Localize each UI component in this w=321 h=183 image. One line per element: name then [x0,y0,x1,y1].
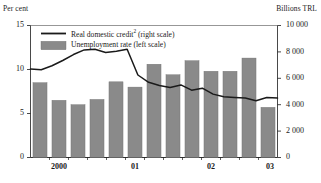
bar [185,61,199,158]
bar [71,105,85,158]
y-axis-tick-label: 5 [0,108,24,117]
y2-axis-tick-label: 6 000 [286,73,304,82]
bar [261,107,275,157]
legend-markers [41,34,66,50]
y2-axis-tick-label: 10 000 [286,20,308,29]
bar [223,71,237,157]
x-axis-tick-label: 03 [250,162,290,171]
y-axis-tick-label: 10 [0,64,24,73]
bar [147,64,161,157]
legend-label: Unemployment rate (left scale) [71,40,166,49]
x-axis-tick-label: 02 [191,162,231,171]
bar [33,83,47,158]
bar [128,87,142,157]
y-axis-tick-label: 0 [0,152,24,161]
y2-axis-tick-label: 2 000 [286,126,304,135]
x-axis-tick-label: 2000 [39,162,79,171]
bar [90,99,104,157]
x-axis-tick-label: 01 [115,162,155,171]
y2-axis-tick-label: 4 000 [286,100,304,109]
legend-footnote-marker: 2 [133,28,136,34]
bar [52,100,66,157]
y-axis-tick-label: 15 [0,20,24,29]
legend-label: Real domestic credit2 (right scale) [71,28,175,39]
bar [204,71,218,157]
y2-axis-tick-label: 8 000 [286,47,304,56]
bar [242,58,256,157]
bar [109,82,123,158]
bar-series [33,58,275,157]
y2-axis-tick-label: 0 [286,152,290,161]
